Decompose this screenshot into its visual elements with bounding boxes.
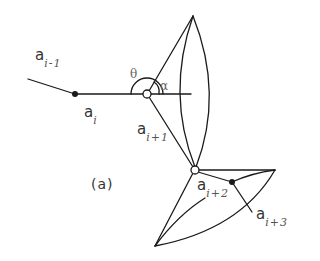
joint-upper [143,90,151,98]
label-subscript: i+1 [146,131,169,144]
label-subscript: i+2 [206,187,229,200]
label-a-i-plus-1: ai+1 [137,122,169,137]
label-base: a [256,205,265,223]
inner-arc [155,198,205,246]
label-a-i: ai [84,105,98,120]
left-edge [155,173,193,246]
panel-label: (a) [91,176,114,192]
label-subscript: i-1 [44,57,61,70]
node-a-i [72,91,78,97]
label-a-i-minus-1: ai-1 [35,48,61,63]
label-base: a [35,46,44,64]
node-a-i-plus-3 [229,179,235,185]
joint-lower [191,166,199,174]
label-subscript: i+3 [265,216,288,229]
segment-a-i-minus-1 [28,79,75,94]
lens-right-arc [193,16,209,167]
label-base: a [137,120,146,138]
label-a-i-plus-2: ai+2 [197,178,229,193]
segment-a-i-plus-3 [232,182,252,212]
upper-link [149,16,193,91]
label-a-i-plus-3: ai+3 [256,207,288,222]
lens-left-arc [180,16,195,167]
alpha-angle-arc [154,82,159,94]
theta-label: θ [130,67,137,81]
label-base: a [84,103,93,121]
label-base: a [197,176,206,194]
label-subscript: i [93,114,98,127]
alpha-label: α [160,79,168,93]
